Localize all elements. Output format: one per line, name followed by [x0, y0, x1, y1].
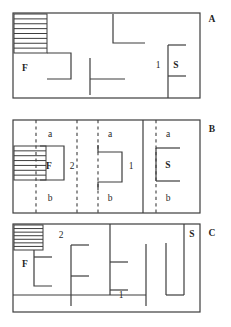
panel-b-hatch-region — [14, 146, 46, 180]
panel-a-hatch-region — [14, 14, 47, 53]
panel-b-label-1: 1 — [129, 161, 134, 171]
panel-b-label-b-1: b — [48, 193, 53, 203]
panel-b-label-s: S — [165, 160, 170, 170]
panel-c-label-f: F — [22, 259, 28, 269]
panel-a-label-f: F — [22, 63, 28, 73]
panel-b-label-b-3: b — [166, 193, 171, 203]
panel-a-label-1: 1 — [156, 60, 161, 70]
panel-b-label-2: 2 — [70, 161, 75, 171]
panel-b-letter: B — [209, 124, 216, 134]
floorplan-figure: F1SAaaaF21SbbbBF21SC — [0, 0, 231, 327]
figure-root: F1SAaaaF21SbbbBF21SC — [0, 0, 231, 327]
panel-b-label-f: F — [46, 161, 52, 171]
panel-b-label-b-2: b — [108, 193, 113, 203]
panel-a-label-s: S — [173, 60, 178, 70]
panel-c-label-1: 1 — [119, 290, 124, 300]
panel-c-label-s: S — [189, 229, 194, 239]
panel-a-letter: A — [209, 14, 216, 24]
panel-c-letter: C — [209, 228, 216, 238]
panel-c-label-2: 2 — [59, 230, 64, 240]
panel-c-hatch-region — [14, 225, 43, 250]
